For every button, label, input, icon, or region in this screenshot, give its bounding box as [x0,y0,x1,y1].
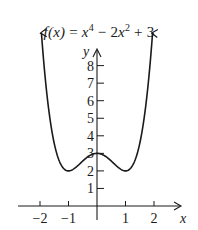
y-tick-label: 4 [87,129,94,144]
x-tick-label: −2 [33,211,48,226]
x-tick-label: 1 [122,211,129,226]
y-tick-label: 7 [87,76,94,91]
y-tick-label: 1 [87,181,94,196]
y-axis-label: y [81,44,90,59]
x-tick-label: 2 [151,211,158,226]
plot-area: −2−112 x 12345678 y [0,0,198,230]
x-axis: −2−112 x [18,201,187,226]
y-tick-label: 5 [87,111,94,126]
x-tick-label: −1 [61,211,76,226]
x-axis-label: x [179,211,187,226]
y-axis: 12345678 y [81,44,104,220]
y-tick-label: 6 [87,94,94,109]
y-tick-label: 8 [87,59,94,74]
y-tick-label: 2 [87,164,94,179]
